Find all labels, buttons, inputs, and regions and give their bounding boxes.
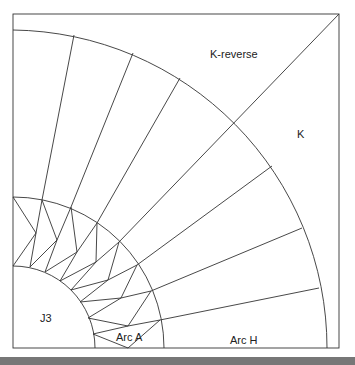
arc-middle [13,197,164,348]
label-k-reverse: K-reverse [210,48,258,60]
label-k: K [297,128,305,140]
arc-a-zigzag [13,197,160,348]
quilt-pattern-diagram: K-reverse K J3 Arc A Arc H [0,0,355,365]
label-arc-h: Arc H [230,334,258,346]
label-j3: J3 [40,312,52,324]
label-arc-a: Arc A [116,331,143,343]
bottom-bar [0,357,355,365]
arc-j3-boundary [13,266,95,348]
